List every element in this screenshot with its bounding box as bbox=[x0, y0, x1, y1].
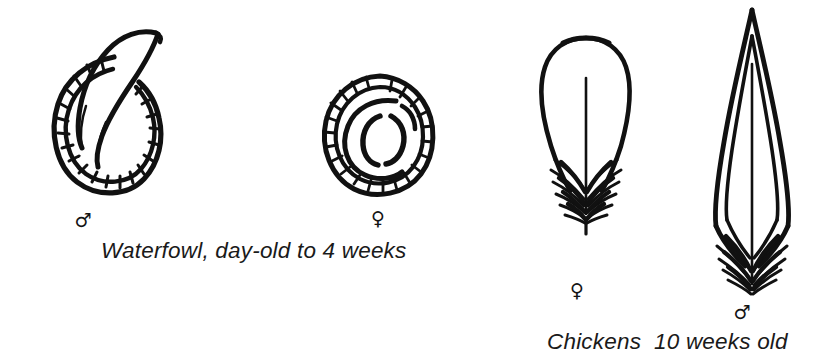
chicken-female-feather-illustration bbox=[533, 22, 639, 272]
waterfowl-male-sex-symbol: ♂ bbox=[68, 211, 98, 230]
waterfowl-male-vent-illustration bbox=[44, 26, 170, 202]
chicken-male-sex-symbol: ♂ bbox=[727, 303, 757, 322]
waterfowl-caption: Waterfowl, day-old to 4 weeks bbox=[101, 240, 407, 263]
poultry-sexing-figure: ♂ bbox=[0, 0, 819, 361]
chicken-female-sex-symbol: ♀ bbox=[562, 281, 592, 300]
waterfowl-female-vent-illustration bbox=[318, 72, 442, 200]
chickens-caption: Chickens 10 weeks old bbox=[547, 331, 788, 354]
waterfowl-female-sex-symbol: ♀ bbox=[363, 209, 393, 228]
chicken-male-feather-illustration bbox=[700, 2, 804, 302]
